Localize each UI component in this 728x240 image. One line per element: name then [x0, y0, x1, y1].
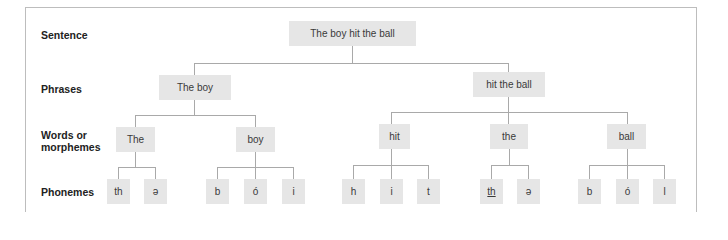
connector — [135, 115, 255, 116]
sentence-node: The boy hit the ball — [289, 21, 416, 46]
word-node-hit: hit — [379, 124, 410, 149]
connector — [135, 152, 136, 167]
phoneme-node: th — [107, 179, 130, 204]
connector — [391, 149, 392, 179]
phoneme-node: ó — [244, 179, 267, 204]
phoneme-node: l — [653, 179, 676, 204]
connector — [589, 165, 665, 166]
connector — [508, 97, 509, 112]
connector — [428, 165, 429, 179]
connector — [391, 112, 392, 124]
phrase-node-the-boy: The boy — [159, 75, 231, 100]
phoneme-node: t — [417, 179, 440, 204]
connector — [194, 63, 508, 64]
connector — [255, 115, 256, 127]
row-label-sentence: Sentence — [41, 30, 88, 41]
connector — [155, 167, 156, 179]
connector — [508, 63, 509, 72]
connector — [118, 167, 119, 179]
row-label-words-line1: Words or — [41, 130, 87, 141]
connector — [135, 115, 136, 127]
connector — [491, 165, 529, 166]
connector — [589, 165, 590, 179]
connector — [293, 167, 294, 179]
phoneme-node: b — [206, 179, 229, 204]
connector — [509, 149, 510, 165]
connector — [627, 112, 628, 124]
row-label-phrases: Phrases — [41, 84, 82, 95]
row-label-phonemes: Phonemes — [41, 187, 94, 198]
phoneme-node: i — [380, 179, 403, 204]
connector — [664, 165, 665, 179]
word-node-the-2: the — [490, 124, 528, 149]
phoneme-node: h — [342, 179, 365, 204]
connector — [353, 165, 354, 179]
connector — [217, 167, 294, 168]
phoneme-node: ə — [144, 179, 167, 204]
connector — [255, 152, 256, 179]
connector — [194, 100, 195, 115]
connector — [352, 46, 353, 63]
word-node-ball: ball — [607, 124, 646, 149]
phoneme-node: i — [282, 179, 305, 204]
connector — [508, 112, 509, 124]
connector — [391, 112, 628, 113]
row-label-words-line2: morphemes — [41, 142, 101, 153]
connector — [491, 165, 492, 179]
phoneme-node: ó — [616, 179, 639, 204]
connector — [627, 149, 628, 179]
connector — [194, 63, 195, 75]
connector — [118, 167, 156, 168]
word-node-boy: boy — [236, 127, 275, 152]
word-node-the: The — [116, 127, 155, 152]
phoneme-node-underlined: th — [480, 179, 503, 204]
connector — [528, 165, 529, 179]
connector — [353, 165, 429, 166]
phoneme-node: b — [578, 179, 601, 204]
phoneme-node: ə — [517, 179, 540, 204]
connector — [217, 167, 218, 179]
phrase-node-hit-the-ball: hit the ball — [473, 72, 545, 97]
